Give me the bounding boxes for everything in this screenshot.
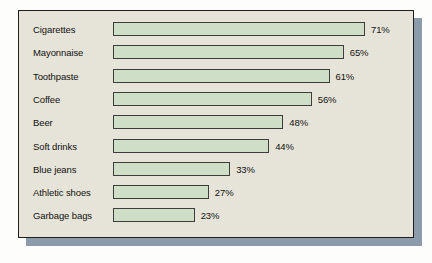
bar-category-label: Mayonnaise [33, 44, 113, 61]
bar-category-label: Beer [33, 114, 113, 131]
chart-panel: Cigarettes71%Mayonnaise65%Toothpaste61%C… [18, 10, 414, 238]
bar-fill [113, 185, 209, 199]
bar-value-label: 33% [236, 161, 255, 178]
bar-track: 48% [113, 114, 409, 131]
bar-fill [113, 208, 195, 222]
bar-value-label: 56% [318, 91, 337, 108]
bar-category-label: Garbage bags [33, 207, 113, 224]
bar-fill [113, 115, 283, 129]
bar-row: Mayonnaise65% [19, 44, 413, 61]
bar-category-label: Blue jeans [33, 161, 113, 178]
bar-fill [113, 22, 365, 36]
bar-value-label: 27% [215, 184, 234, 201]
bar-track: 23% [113, 207, 409, 224]
bar-row: Beer48% [19, 114, 413, 131]
bar-track: 33% [113, 161, 409, 178]
bar-track: 44% [113, 138, 409, 155]
bar-value-label: 48% [289, 114, 308, 131]
bar-value-label: 23% [201, 207, 220, 224]
bar-value-label: 71% [371, 21, 390, 38]
bar-track: 27% [113, 184, 409, 201]
bar-row: Soft drinks44% [19, 138, 413, 155]
bar-category-label: Cigarettes [33, 21, 113, 38]
bar-track: 71% [113, 21, 409, 38]
bar-row: Cigarettes71% [19, 21, 413, 38]
bar-fill [113, 69, 330, 83]
bar-value-label: 61% [336, 68, 355, 85]
bar-chart-figure: Cigarettes71%Mayonnaise65%Toothpaste61%C… [0, 0, 432, 263]
bar-row: Athletic shoes27% [19, 184, 413, 201]
bar-row: Coffee56% [19, 91, 413, 108]
bar-row: Toothpaste61% [19, 68, 413, 85]
bar-fill [113, 45, 344, 59]
bar-track: 61% [113, 68, 409, 85]
bar-fill [113, 139, 269, 153]
bar-category-label: Toothpaste [33, 68, 113, 85]
bar-category-label: Athletic shoes [33, 184, 113, 201]
bar-value-label: 65% [350, 44, 369, 61]
bar-fill [113, 162, 230, 176]
bar-category-label: Coffee [33, 91, 113, 108]
plot-area: Cigarettes71%Mayonnaise65%Toothpaste61%C… [19, 11, 413, 237]
bar-fill [113, 92, 312, 106]
bar-track: 56% [113, 91, 409, 108]
bar-category-label: Soft drinks [33, 138, 113, 155]
bar-value-label: 44% [275, 138, 294, 155]
bar-row: Blue jeans33% [19, 161, 413, 178]
bar-track: 65% [113, 44, 409, 61]
bar-row: Garbage bags23% [19, 207, 413, 224]
